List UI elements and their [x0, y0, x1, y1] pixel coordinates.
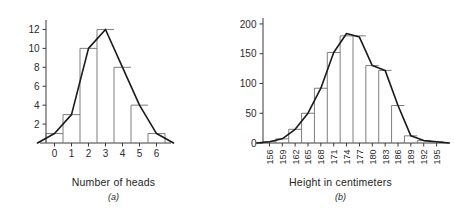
histogram-bar	[131, 105, 148, 143]
figure-root: 246810120123456 Number of heads (a) 0501…	[0, 0, 454, 211]
y-tick-label: 50	[245, 108, 257, 119]
y-tick-label: 200	[240, 19, 257, 30]
histogram-bar	[392, 106, 405, 144]
y-tick-label: 10	[28, 43, 40, 54]
x-tick-label: 4	[120, 148, 126, 159]
histogram-bar	[340, 36, 353, 143]
x-tick-label: 165	[303, 150, 313, 165]
y-tick-label: 12	[28, 24, 40, 35]
y-tick-label: 8	[34, 62, 40, 73]
y-tick-label: 6	[34, 81, 40, 92]
x-tick-label: 0	[52, 148, 58, 159]
histogram-bar	[353, 36, 366, 143]
x-tick-label: 186	[393, 150, 403, 165]
x-tick-label: 1	[69, 148, 75, 159]
chart-panel-b: 0501001502001561591621651681711741771801…	[227, 0, 454, 211]
chart-b-xaxis-title: Height in centimeters	[227, 176, 454, 188]
x-tick-label: 6	[154, 148, 160, 159]
histogram-bar	[46, 134, 63, 143]
histogram-bar	[366, 66, 379, 143]
x-tick-label: 168	[316, 150, 326, 165]
x-tick-label: 3	[103, 148, 109, 159]
x-tick-label: 159	[278, 150, 288, 165]
x-tick-label: 195	[432, 150, 442, 165]
histogram-bar	[148, 134, 165, 143]
x-tick-label: 177	[355, 150, 365, 165]
x-tick-label: 180	[368, 150, 378, 165]
histogram-bar	[80, 48, 97, 143]
x-tick-label: 162	[291, 150, 301, 165]
y-tick-label: 2	[34, 119, 40, 130]
y-tick-label: 4	[34, 100, 40, 111]
x-tick-label: 171	[329, 150, 339, 165]
x-tick-label: 183	[381, 150, 391, 165]
chart-panel-a: 246810120123456 Number of heads (a)	[0, 0, 227, 211]
histogram-bar	[63, 115, 80, 143]
chart-a-panel-label: (a)	[0, 192, 227, 202]
y-tick-label: 150	[240, 48, 257, 59]
histogram-bar	[97, 29, 114, 143]
x-tick-label: 5	[137, 148, 143, 159]
histogram-chart-b: 0501001502001561591621651681711741771801…	[227, 0, 454, 172]
histogram-chart-a: 246810120123456	[0, 0, 227, 172]
chart-b-panel-label: (b)	[227, 192, 454, 202]
x-tick-label: 189	[406, 150, 416, 165]
chart-a-xaxis-title: Number of heads	[0, 176, 227, 188]
x-tick-label: 2	[86, 148, 92, 159]
histogram-bar	[289, 129, 302, 143]
x-tick-label: 174	[342, 150, 352, 165]
x-tick-label: 156	[265, 150, 275, 165]
x-tick-label: 192	[419, 150, 429, 165]
y-tick-label: 100	[240, 78, 257, 89]
